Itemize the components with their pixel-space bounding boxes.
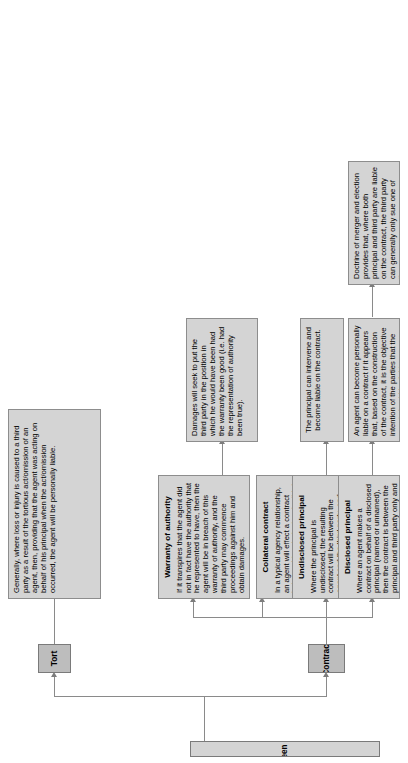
connector-to-tort bbox=[54, 675, 55, 697]
node-warranty-of-authority: Warranty of authority If it transpires t… bbox=[158, 475, 250, 599]
diagram-title: Legal relations between agent and third … bbox=[190, 741, 380, 757]
node-disclosed-principal-header: Disclosed principal bbox=[343, 481, 353, 593]
connector-title-out bbox=[204, 697, 205, 741]
node-doctrine-of-merger: Doctrine of merger and election provides… bbox=[348, 161, 400, 285]
node-tort-detail-body: Generally, where loss or injury is cause… bbox=[13, 415, 58, 593]
connector-tort-to-detail bbox=[54, 599, 55, 644]
node-warranty-of-authority-header: Warranty of authority bbox=[163, 481, 173, 593]
node-disclosed-principal: Disclosed principalWhere an agent makes … bbox=[338, 475, 400, 599]
diagram-rotation-wrapper: Legal relations between agent and third … bbox=[0, 0, 408, 763]
connector-contract-fan-up bbox=[193, 617, 326, 618]
category-contract[interactable]: Contract bbox=[308, 644, 345, 673]
node-doctrine-of-merger-body: Doctrine of merger and election provides… bbox=[353, 167, 400, 279]
connector-to-contract bbox=[326, 675, 327, 697]
connector-to-collateral bbox=[262, 600, 263, 618]
connector-warranty-to-damages bbox=[222, 442, 223, 475]
connector-contract-out bbox=[326, 618, 327, 644]
connector-to-undisclosed bbox=[326, 600, 327, 618]
node-undisclosed-intervene: The principal can intervene and become l… bbox=[300, 318, 344, 442]
node-undisclosed-principal-header: Undisclosed principal bbox=[297, 481, 307, 593]
node-agent-personally-liable-body: An agent can become personally liable on… bbox=[353, 324, 400, 436]
node-tort-detail: Generally, where loss or injury is cause… bbox=[8, 409, 101, 599]
connector-undisclosed-to-intervene bbox=[326, 442, 327, 475]
node-undisclosed-intervene-body: The principal can intervene and become l… bbox=[305, 324, 323, 436]
connector-contract-fan-down bbox=[326, 617, 372, 618]
connector-title-vertical-down bbox=[204, 696, 326, 697]
flowchart-canvas: Legal relations between agent and third … bbox=[0, 0, 408, 763]
category-tort[interactable]: Tort bbox=[38, 644, 71, 673]
category-tort-label: Tort bbox=[50, 651, 60, 667]
connector-to-disclosed bbox=[372, 600, 373, 618]
connector-to-warranty bbox=[193, 600, 194, 618]
node-warranty-damages-body: Damages will seek to put the third party… bbox=[191, 324, 245, 436]
node-warranty-damages: Damages will seek to put the third party… bbox=[186, 318, 258, 442]
connector-agent-liable-to-merger bbox=[372, 285, 373, 317]
connector-title-vertical-up bbox=[54, 696, 205, 697]
connector-disclosed-to-agent-liable bbox=[372, 442, 373, 475]
node-warranty-of-authority-body: If it transpires that the agent did not … bbox=[176, 481, 248, 593]
node-disclosed-principal-body: Where an agent makes a contract on behal… bbox=[356, 481, 400, 593]
node-agent-personally-liable: An agent can become personally liable on… bbox=[348, 318, 400, 442]
diagram-title-text: Legal relations between agent and third … bbox=[281, 741, 290, 757]
category-contract-label: Contract bbox=[322, 644, 332, 673]
node-collateral-contract-header: Collateral contract bbox=[261, 481, 271, 593]
